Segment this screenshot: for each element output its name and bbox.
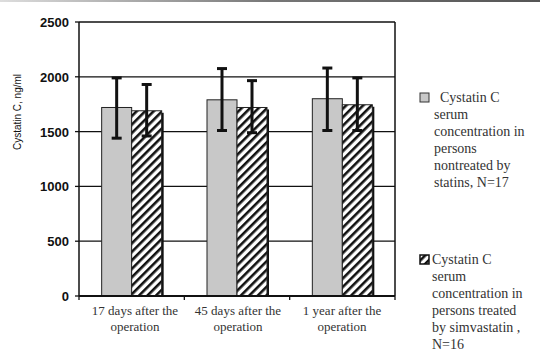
legend-entry-treated: Cystatin C serum concentration in person…	[432, 251, 523, 353]
y-tick-label: 1500	[40, 125, 69, 140]
y-tick-label: 1000	[40, 179, 69, 194]
bars	[102, 68, 375, 296]
x-label-1b: operation	[213, 319, 263, 334]
x-label-0b: operation	[110, 319, 160, 334]
x-label-1: 45 days after the	[195, 303, 282, 318]
x-label-0: 17 days after the	[92, 303, 179, 318]
y-tick-label: 0	[62, 289, 69, 304]
legend-swatch-gray	[420, 93, 429, 102]
bar	[237, 107, 267, 296]
x-label-2: 1 year after the	[303, 303, 382, 318]
x-label-2b: operation	[317, 319, 367, 334]
y-tick-label: 500	[47, 234, 69, 249]
bar	[342, 105, 372, 296]
y-tick-label: 2000	[40, 70, 69, 85]
legend-swatch-hatched	[420, 255, 429, 264]
bar	[132, 111, 162, 296]
y-axis-label: Cystatin C, ng/ml	[12, 74, 23, 150]
legend-entry-nontreated: Cystatin C serum concentration in person…	[434, 89, 525, 191]
y-tick-label: 2500	[40, 15, 69, 30]
